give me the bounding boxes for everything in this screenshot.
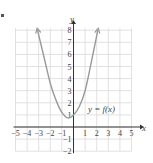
y-tick-label: 6 (68, 50, 72, 59)
y-tick-label: 7 (68, 38, 72, 47)
y-tick-label: 3 (68, 87, 72, 96)
x-tick-label: −2 (46, 129, 55, 138)
x-tick-label: 2 (95, 129, 99, 138)
x-tick-label: 4 (118, 129, 122, 138)
x-tick-label: −3 (34, 129, 43, 138)
tick-labels: −5−4−3−2−112345−2−112345678 (11, 26, 133, 156)
y-tick-label: −2 (63, 147, 72, 156)
x-axis-label: x (141, 123, 146, 133)
y-tick-label: 5 (68, 63, 72, 72)
x-tick-label: −4 (23, 129, 32, 138)
y-tick-label: 8 (68, 26, 72, 35)
y-axis-label: y (69, 14, 74, 24)
x-tick-label: 1 (83, 129, 87, 138)
y-tick-label: −1 (63, 135, 72, 144)
curve-label: y = f(x) (87, 104, 115, 114)
x-tick-label: 3 (106, 129, 110, 138)
x-tick-label: −5 (11, 129, 20, 138)
y-tick-label: 4 (68, 75, 72, 84)
function-graph: −5−4−3−2−112345−2−112345678 x y y = f(x) (0, 0, 153, 163)
y-tick-label: 2 (68, 99, 72, 108)
x-tick-label: 5 (130, 129, 134, 138)
axes (14, 20, 145, 153)
